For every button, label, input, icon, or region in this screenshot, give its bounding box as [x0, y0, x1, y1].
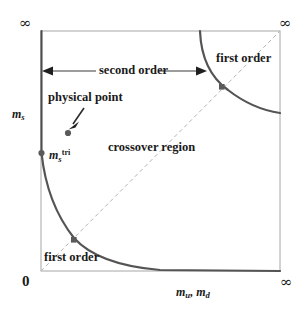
plot-canvas	[0, 0, 308, 316]
tricritical-mass-symbol: m	[49, 148, 58, 162]
y-axis-max-tick-label: ∞	[19, 16, 32, 31]
x-axis-max-tick-label: ∞	[280, 275, 293, 290]
physical-point-leader-arrow	[69, 108, 85, 130]
y-axis-label-symbol: m	[12, 107, 21, 121]
columbia-plot-figure: ∞ ∞ 0 ∞ ms mu, md second order first ord…	[0, 0, 308, 316]
crossover-region-label: crossover region	[108, 141, 195, 154]
lower-critical-endpoint-dot	[71, 237, 77, 243]
first-order-bottom-left-label: first order	[44, 251, 99, 264]
y-axis-label-subscript: s	[21, 112, 24, 122]
x-axis-label-symbol-1: m	[176, 285, 185, 299]
first-order-top-right-label: first order	[216, 52, 271, 65]
upper-right-first-order-curve	[200, 31, 280, 113]
physical-point-dot	[65, 130, 71, 136]
tricritical-point-dot	[38, 150, 44, 156]
origin-tick-label: 0	[22, 274, 30, 289]
top-right-corner-tick-label: ∞	[279, 16, 292, 31]
tricritical-mass-superscript: tri	[62, 148, 71, 157]
x-axis-label: mu, md	[176, 286, 210, 300]
x-axis-label-subscript-2: d	[205, 290, 209, 300]
arrow-head-right-icon	[196, 67, 207, 76]
arrow-head-left-icon	[42, 67, 53, 76]
upper-critical-endpoint-dot	[219, 84, 225, 90]
y-axis-label: ms	[12, 108, 25, 122]
tricritical-mass-label: mstri	[49, 149, 70, 164]
second-order-label: second order	[99, 64, 168, 77]
physical-point-label: physical point	[48, 91, 123, 104]
x-axis-label-separator: , m	[190, 285, 205, 299]
